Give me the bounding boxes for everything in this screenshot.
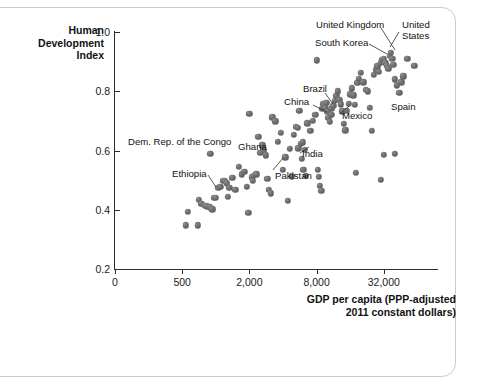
data-point (282, 154, 288, 160)
data-point (213, 195, 219, 201)
x-tick-mark (182, 269, 183, 274)
data-point (358, 70, 364, 76)
data-point (376, 68, 382, 74)
y-tick-label: 0.6 (80, 145, 110, 157)
x-tick-mark (384, 269, 385, 274)
data-point (246, 111, 252, 117)
data-point (338, 101, 344, 107)
data-point (396, 90, 402, 96)
y-tick-label: 0.4 (80, 204, 110, 216)
data-point (207, 151, 213, 157)
x-tick-label: 8,000 (287, 276, 347, 288)
data-point (318, 188, 324, 194)
data-point (275, 139, 281, 145)
data-point (369, 127, 375, 133)
data-point (217, 183, 223, 189)
data-point (313, 57, 319, 63)
data-point (330, 103, 336, 109)
data-point (250, 178, 256, 184)
data-point (225, 194, 231, 200)
data-point (184, 208, 190, 214)
data-point (316, 173, 322, 179)
leader-united-states (390, 32, 399, 47)
data-point (295, 145, 301, 151)
annotation-ghana: Ghana (238, 141, 267, 152)
data-point (312, 112, 318, 118)
data-point (209, 206, 215, 212)
x-tick-mark (249, 269, 250, 274)
x-tick-label: 2,000 (219, 276, 279, 288)
x-axis-title: GDP per capita (PPP-adjusted 2011 consta… (218, 293, 456, 319)
data-point (310, 118, 316, 124)
data-point (315, 167, 321, 173)
x-axis-line (114, 269, 438, 270)
data-point (360, 79, 366, 85)
data-point (348, 85, 354, 91)
annotation-pakistan: Pakistan (275, 170, 312, 181)
data-point (381, 151, 387, 157)
y-axis-title-line3: Index (12, 49, 104, 62)
data-point (307, 127, 313, 133)
x-axis-title-line1: GDP per capita (PPP-adjusted (218, 293, 456, 306)
y-tick-mark (115, 210, 120, 211)
x-tick-label: 500 (152, 276, 212, 288)
y-tick-label: 0.8 (80, 85, 110, 97)
data-point (391, 151, 397, 157)
data-point (350, 92, 356, 98)
data-point (398, 79, 404, 85)
data-point (272, 118, 278, 124)
data-point (287, 146, 293, 152)
annotation-united-states: United States (402, 19, 442, 41)
annotation-south-korea: South Korea (315, 37, 368, 48)
x-tick-label: 32,000 (354, 276, 414, 288)
data-point (365, 88, 371, 94)
data-point (341, 121, 347, 127)
y-tick-mark (115, 151, 120, 152)
data-point (241, 168, 247, 174)
data-point (284, 197, 290, 203)
leader-united-kingdom (381, 28, 395, 50)
x-tick-mark (317, 269, 318, 274)
data-point (390, 61, 396, 67)
annotation-spain: Spain (391, 101, 416, 112)
data-point (335, 88, 341, 94)
data-point (296, 107, 302, 113)
data-point (327, 119, 333, 125)
data-point (404, 55, 410, 61)
data-point (291, 132, 297, 138)
y-tick-label: 1.0 (80, 26, 110, 38)
x-tick-label: 0 (85, 276, 145, 288)
data-point (253, 171, 259, 177)
data-point (277, 130, 283, 136)
data-point (328, 112, 334, 118)
y-tick-mark (115, 32, 120, 33)
data-point (400, 73, 406, 79)
data-point (263, 152, 269, 158)
annotation-china: China (284, 96, 309, 107)
data-point (342, 127, 348, 133)
data-point (351, 102, 357, 108)
y-tick-label: 0.2 (80, 263, 110, 275)
data-point (232, 186, 238, 192)
data-point (323, 99, 329, 105)
data-point (245, 210, 251, 216)
annotation-brazil: Brazil (303, 83, 327, 94)
annotation-india: India (302, 148, 323, 159)
data-point (411, 63, 417, 69)
data-point (183, 222, 189, 228)
data-point (255, 134, 261, 140)
y-tick-mark (115, 91, 120, 92)
x-tick-mark (115, 269, 116, 274)
data-point (244, 183, 250, 189)
data-point (267, 190, 273, 196)
leader-south-korea (369, 44, 387, 54)
data-point (195, 222, 201, 228)
annotation-mexico: Mexico (342, 110, 372, 121)
x-axis-title-line2: 2011 constant dollars) (218, 306, 456, 319)
data-point (229, 175, 235, 181)
data-point (299, 139, 305, 145)
data-point (353, 170, 359, 176)
data-point (294, 125, 300, 131)
data-point (377, 176, 383, 182)
